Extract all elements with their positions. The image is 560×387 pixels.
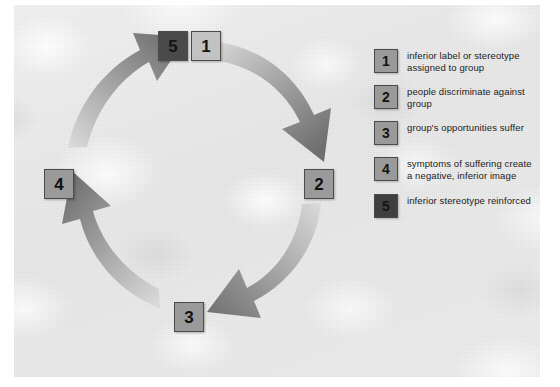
legend-marker-5: 5 bbox=[374, 194, 398, 218]
cycle-node-3[interactable]: 3 bbox=[174, 302, 204, 332]
legend-text-2: people discriminate against group bbox=[407, 85, 534, 109]
legend-marker-4-label: 4 bbox=[382, 162, 390, 176]
cycle-node-4[interactable]: 4 bbox=[44, 169, 74, 199]
arrow-1-to-2 bbox=[219, 42, 331, 162]
arrow-2-to-3 bbox=[207, 203, 321, 318]
legend-item-2[interactable]: 2 people discriminate against group bbox=[374, 85, 534, 109]
legend-text-5: inferior stereotype reinforced bbox=[407, 194, 531, 207]
legend-text-4: symptoms of suffering create a negative,… bbox=[407, 157, 534, 181]
legend-marker-2: 2 bbox=[374, 85, 398, 109]
diagram-canvas: 5 1 2 3 4 1 inferior label or stereotype… bbox=[14, 5, 540, 377]
legend-item-4[interactable]: 4 symptoms of suffering create a negativ… bbox=[374, 157, 534, 181]
legend-marker-5-label: 5 bbox=[382, 199, 390, 213]
legend-marker-3-label: 3 bbox=[382, 126, 390, 140]
legend-marker-1: 1 bbox=[374, 49, 398, 73]
legend-marker-4: 4 bbox=[374, 157, 398, 181]
legend: 1 inferior label or stereotype assigned … bbox=[374, 49, 534, 230]
cycle-node-2[interactable]: 2 bbox=[304, 169, 334, 199]
cycle-node-3-label: 3 bbox=[184, 309, 193, 326]
legend-marker-1-label: 1 bbox=[382, 54, 390, 68]
cycle-node-4-label: 4 bbox=[54, 176, 63, 193]
legend-item-5[interactable]: 5 inferior stereotype reinforced bbox=[374, 194, 534, 218]
arrow-3-to-4 bbox=[62, 171, 160, 308]
cycle-node-5-label: 5 bbox=[168, 38, 177, 55]
legend-marker-2-label: 2 bbox=[382, 90, 390, 104]
legend-item-1[interactable]: 1 inferior label or stereotype assigned … bbox=[374, 49, 534, 73]
legend-marker-3: 3 bbox=[374, 121, 398, 145]
cycle-node-2-label: 2 bbox=[314, 176, 323, 193]
diagram-root: 5 1 2 3 4 1 inferior label or stereotype… bbox=[0, 0, 560, 387]
legend-item-3[interactable]: 3 group's opportunities suffer bbox=[374, 121, 534, 145]
cycle-node-1[interactable]: 1 bbox=[191, 31, 221, 61]
legend-text-1: inferior label or stereotype assigned to… bbox=[407, 49, 534, 73]
cycle-node-5[interactable]: 5 bbox=[158, 31, 188, 61]
legend-text-3: group's opportunities suffer bbox=[407, 121, 524, 134]
cycle-node-1-label: 1 bbox=[201, 38, 210, 55]
